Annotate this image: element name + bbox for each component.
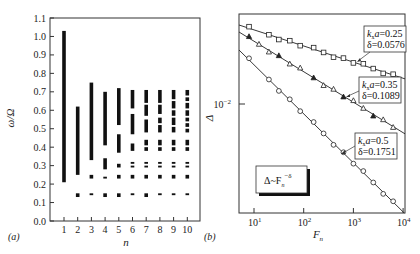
y-tick-label: 0.7 bbox=[34, 86, 47, 97]
band-segment bbox=[158, 125, 162, 132]
band-segment bbox=[172, 166, 176, 168]
band-segment bbox=[186, 103, 190, 109]
data-point-square bbox=[361, 61, 366, 66]
band-segment bbox=[117, 88, 121, 125]
svg-text:δ=0.1089: δ=0.1089 bbox=[362, 90, 400, 101]
data-point-circle bbox=[311, 120, 316, 125]
band-segment bbox=[172, 175, 176, 179]
data-point-square bbox=[277, 37, 282, 42]
data-point-triangle bbox=[351, 98, 356, 103]
panel-a-y-axis-title: ω/Ω bbox=[4, 109, 16, 128]
band-segment bbox=[186, 129, 190, 133]
data-point-square bbox=[247, 24, 252, 29]
band-segment bbox=[186, 147, 190, 151]
data-point-square bbox=[287, 38, 292, 43]
band-segment bbox=[186, 166, 190, 168]
x-tick-label: 101 bbox=[248, 216, 262, 228]
data-point-square bbox=[311, 45, 316, 50]
band-segment bbox=[131, 90, 135, 108]
data-point-square bbox=[341, 56, 346, 61]
band-segment bbox=[158, 140, 162, 146]
band-segment bbox=[76, 193, 80, 197]
band-segment bbox=[186, 193, 190, 195]
band-segment bbox=[186, 140, 190, 146]
band-segment bbox=[158, 90, 162, 103]
band-segment bbox=[172, 118, 176, 125]
band-segment bbox=[131, 166, 135, 168]
band-segment bbox=[158, 193, 162, 195]
band-segment bbox=[131, 193, 135, 195]
x-tick-label: 4 bbox=[103, 224, 108, 235]
legend-power-law: Δ~Fn−δ bbox=[256, 166, 310, 196]
x-tick-label: 104 bbox=[397, 216, 411, 228]
band-segment bbox=[186, 97, 190, 101]
y-tick-label: 0.0 bbox=[34, 216, 47, 227]
band-segment bbox=[131, 175, 135, 179]
panel-b-x-axis: 101102103104 bbox=[248, 208, 411, 228]
band-segment bbox=[62, 31, 66, 182]
data-point-circle bbox=[287, 97, 292, 102]
y-tick-label: 0.5 bbox=[34, 123, 47, 134]
data-point-circle bbox=[298, 109, 303, 114]
x-tick-label: 10 bbox=[182, 224, 192, 235]
band-segment bbox=[158, 175, 162, 179]
data-point-circle bbox=[276, 89, 281, 94]
data-point-square bbox=[267, 32, 272, 37]
data-point-circle bbox=[331, 142, 336, 147]
band-segment bbox=[172, 162, 176, 164]
data-point-square bbox=[331, 55, 336, 60]
panel-a-x-axis-title: n bbox=[123, 236, 129, 248]
band-segment bbox=[172, 110, 176, 116]
band-segment bbox=[172, 193, 176, 195]
data-point-square bbox=[351, 61, 356, 66]
y-tick-label: 0.4 bbox=[34, 142, 47, 153]
band-segment bbox=[172, 147, 176, 151]
y-tick-label: 0.1 bbox=[34, 197, 47, 208]
band-segment bbox=[186, 175, 190, 179]
band-segment bbox=[90, 83, 94, 161]
panel-a-plot-frame bbox=[50, 18, 200, 221]
band-segment bbox=[117, 134, 121, 152]
x-tick-label: 8 bbox=[157, 224, 162, 235]
band-segment bbox=[172, 127, 176, 133]
panel-a-x-axis: 12345678910 bbox=[62, 217, 193, 235]
y-tick-label: 0.8 bbox=[34, 68, 47, 79]
band-segment bbox=[117, 193, 121, 197]
data-point-circle bbox=[381, 191, 386, 196]
panel-a-bands bbox=[62, 31, 189, 197]
data-point-circle bbox=[321, 131, 326, 136]
band-segment bbox=[186, 123, 190, 127]
band-segment bbox=[158, 162, 162, 164]
data-point-square bbox=[381, 71, 386, 76]
band-segment bbox=[158, 118, 162, 124]
panel-b-ytick-label: 10−2 bbox=[214, 98, 232, 110]
data-point-triangle bbox=[246, 34, 251, 39]
band-segment bbox=[186, 90, 190, 96]
band-segment bbox=[144, 147, 148, 151]
panel-b-x-axis-title: Fn bbox=[312, 228, 324, 243]
x-tick-label: 6 bbox=[130, 224, 135, 235]
band-segment bbox=[172, 90, 176, 99]
panel-b-y-axis-title: Δ bbox=[203, 115, 215, 122]
band-segment bbox=[131, 162, 135, 164]
svg-text:δ=0.1751: δ=0.1751 bbox=[358, 146, 396, 157]
x-tick-label: 9 bbox=[171, 224, 176, 235]
band-segment bbox=[144, 162, 148, 164]
x-tick-label: 5 bbox=[116, 224, 121, 235]
band-segment bbox=[144, 166, 148, 168]
band-segment bbox=[186, 162, 190, 164]
band-segment bbox=[172, 140, 176, 146]
band-segment bbox=[144, 120, 148, 133]
y-tick-label: 0.3 bbox=[34, 160, 47, 171]
band-segment bbox=[103, 193, 107, 197]
data-point-square bbox=[371, 66, 376, 71]
band-segment bbox=[90, 175, 94, 179]
band-segment bbox=[131, 114, 135, 134]
band-segment bbox=[144, 90, 148, 103]
y-tick-label: 1.1 bbox=[34, 13, 47, 24]
x-tick-label: 7 bbox=[144, 224, 149, 235]
band-segment bbox=[144, 105, 148, 116]
data-point-triangle bbox=[256, 41, 261, 46]
band-segment bbox=[158, 147, 162, 151]
panel-b-y-axis: 10−2 bbox=[214, 98, 245, 110]
